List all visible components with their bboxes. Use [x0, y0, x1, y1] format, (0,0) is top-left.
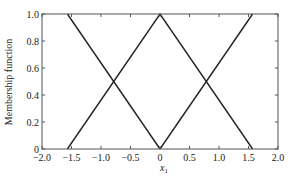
x-tick-label: 1.5 [242, 152, 255, 163]
y-tick-label: 0.4 [27, 90, 40, 101]
x-tick-label: 1.0 [213, 152, 226, 163]
y-tick-label: 0.2 [27, 117, 40, 128]
y-tick-label: 0 [34, 144, 39, 155]
x-tick-label: −1.0 [92, 152, 110, 163]
y-tick-label: 0.8 [27, 36, 40, 47]
y-tick-label: 1.0 [27, 9, 40, 20]
x-tick-label: 2.0 [272, 152, 285, 163]
x-axis-label: x1 [159, 162, 168, 175]
x-tick-label: −1.5 [62, 152, 80, 163]
y-axis-ticks: 00.20.40.60.81.0 [27, 9, 279, 155]
membership-function-chart: −2.0−1.5−1.0−0.500.51.01.52.0 00.20.40.6… [0, 0, 296, 178]
axes-frame [42, 14, 278, 149]
y-axis-label: Membership function [3, 39, 14, 125]
plot-lines [67, 14, 252, 149]
y-tick-label: 0.6 [27, 63, 40, 74]
x-tick-label: −0.5 [121, 152, 139, 163]
x-tick-label: 0.5 [183, 152, 196, 163]
series-line-zero [67, 14, 252, 149]
